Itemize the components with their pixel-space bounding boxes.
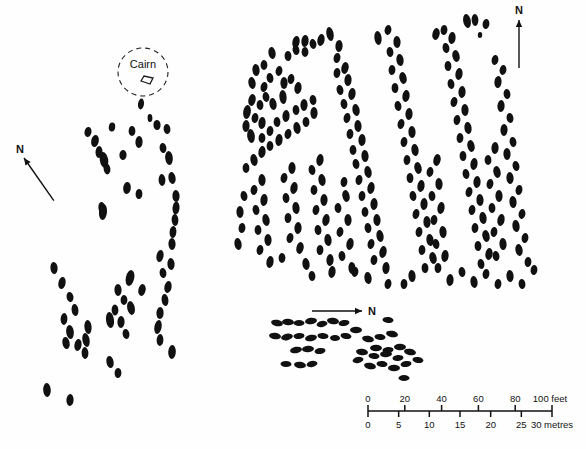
scale-label-feet: 100 feet bbox=[533, 393, 568, 404]
north-arrow-label: N bbox=[368, 305, 376, 317]
scale-label-metres: 25 bbox=[516, 419, 527, 430]
scale-label-feet: 0 bbox=[365, 393, 370, 404]
stone-mark bbox=[310, 107, 317, 119]
scale-label-metres: 10 bbox=[424, 419, 435, 430]
site-plan-figure: Cairn NNN 020406080100 feet051015202530 … bbox=[0, 0, 586, 449]
stone-mark bbox=[399, 375, 410, 381]
north-arrow-label: N bbox=[16, 143, 24, 155]
cairn-label: Cairn bbox=[130, 58, 156, 70]
scale-label-metres: 15 bbox=[455, 419, 466, 430]
stone-mark bbox=[294, 320, 305, 326]
site-plan-canvas: Cairn NNN 020406080100 feet051015202530 … bbox=[0, 0, 586, 449]
scale-label-metres: 30 metres bbox=[531, 419, 573, 430]
plan-background bbox=[0, 0, 586, 449]
scale-label-feet: 80 bbox=[510, 393, 521, 404]
stone-mark bbox=[350, 327, 362, 333]
scale-label-feet: 20 bbox=[400, 393, 411, 404]
scale-label-feet: 40 bbox=[436, 393, 447, 404]
stone-mark bbox=[129, 126, 136, 136]
scale-label-metres: 5 bbox=[396, 419, 401, 430]
stone-mark bbox=[388, 365, 400, 371]
stone-mark bbox=[280, 77, 287, 89]
scale-label-metres: 0 bbox=[365, 419, 370, 430]
scale-label-metres: 20 bbox=[485, 419, 496, 430]
north-arrow-label: N bbox=[515, 4, 523, 16]
scale-label-feet: 60 bbox=[473, 393, 484, 404]
